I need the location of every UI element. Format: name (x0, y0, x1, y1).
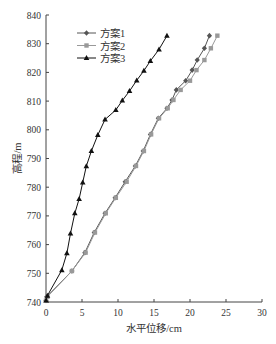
x-tick-label: 15 (149, 308, 159, 318)
square-marker (188, 79, 192, 83)
square-marker (93, 230, 97, 234)
y-tick-label: 770 (27, 211, 42, 221)
square-marker (194, 68, 198, 72)
square-marker (142, 149, 146, 153)
triangle-marker (84, 163, 90, 168)
triangle-marker (72, 210, 78, 215)
line-chart: 7407507607707807908008108208308400510152… (0, 0, 276, 344)
y-tick-label: 740 (27, 298, 42, 308)
series-line (46, 36, 209, 301)
series-3 (43, 33, 170, 303)
square-marker (104, 211, 108, 215)
y-tick-label: 780 (27, 183, 42, 193)
square-marker (171, 98, 175, 102)
x-tick-label: 30 (257, 308, 267, 318)
legend-item-2: 方案2 (77, 40, 125, 52)
square-marker (83, 250, 87, 254)
diamond-marker (202, 45, 207, 51)
series-group (43, 33, 219, 304)
y-tick-label: 840 (27, 11, 42, 21)
y-tick-label: 760 (27, 240, 42, 250)
legend-label: 方案1 (100, 27, 125, 39)
x-tick-label: 5 (80, 308, 85, 318)
square-marker (202, 58, 206, 62)
y-tick-label: 820 (27, 68, 42, 78)
y-tick-label: 750 (27, 269, 42, 279)
triangle-marker (68, 230, 74, 235)
series-line (46, 36, 217, 301)
x-tick-label: 10 (113, 308, 123, 318)
legend-label: 方案3 (100, 52, 125, 64)
series-1 (43, 33, 212, 304)
legend: 方案1方案2方案3 (77, 27, 125, 64)
square-marker (84, 43, 88, 47)
legend-item-3: 方案3 (77, 52, 125, 64)
square-marker (114, 196, 118, 200)
triangle-marker (80, 180, 86, 185)
x-tick-label: 20 (185, 308, 195, 318)
triangle-marker (76, 196, 82, 201)
x-tick-label: 0 (44, 308, 49, 318)
y-tick-label: 790 (27, 154, 42, 164)
y-tick-label: 800 (27, 125, 42, 135)
diamond-marker (190, 67, 195, 73)
chart-container: 7407507607707807908008108208308400510152… (0, 0, 276, 344)
y-tick-label: 810 (27, 97, 42, 107)
square-marker (149, 132, 153, 136)
legend-label: 方案2 (100, 40, 125, 52)
series-2 (44, 33, 220, 302)
square-marker (178, 88, 182, 92)
x-axis-label: 水平位移/cm (126, 322, 182, 334)
triangle-marker (164, 33, 170, 38)
square-marker (157, 116, 161, 120)
triangle-marker (59, 267, 65, 272)
square-marker (165, 106, 169, 110)
legend-item-1: 方案1 (77, 27, 125, 39)
square-marker (124, 180, 128, 184)
triangle-marker (95, 132, 101, 137)
square-marker (215, 33, 219, 37)
diamond-marker (207, 33, 212, 39)
square-marker (70, 269, 74, 273)
y-tick-label: 830 (27, 39, 42, 49)
y-axis-label: 高程/m (11, 142, 23, 173)
triangle-marker (64, 250, 70, 255)
square-marker (209, 46, 213, 50)
triangle-marker (89, 148, 95, 153)
x-tick-label: 25 (221, 308, 231, 318)
series-line (46, 36, 167, 301)
triangle-marker (156, 46, 162, 51)
square-marker (134, 164, 138, 168)
diamond-marker (84, 30, 89, 36)
diamond-marker (195, 57, 200, 63)
